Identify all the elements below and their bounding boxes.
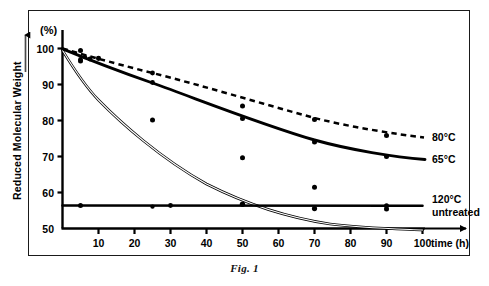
datapoint [78, 57, 83, 62]
datapoint [150, 204, 154, 208]
datapoint [168, 203, 173, 208]
x-tick-label-20: 20 [129, 237, 141, 249]
x-tick-label-40: 40 [201, 237, 213, 249]
y-axis-title-group: Reduced Molecular Weight [11, 61, 23, 200]
series-120c [63, 202, 423, 212]
y-tick-group: 100 90 80 70 60 50 [36, 43, 62, 235]
datapoint [312, 206, 317, 211]
y-axis-unit-label: (%) [40, 24, 57, 36]
x-tick-label-30: 30 [165, 237, 177, 249]
x-tick-label-100: 100 [414, 237, 432, 249]
datapoint [240, 202, 245, 207]
datapoint [240, 116, 245, 121]
datapoint [150, 71, 155, 76]
series-label-80c: 80°C [432, 131, 456, 143]
y-tick-label-90: 90 [42, 79, 54, 91]
y-axis-title: Reduced Molecular Weight [11, 61, 23, 200]
y-tick-label-100: 100 [36, 43, 54, 55]
series-65c-datapoints [78, 55, 389, 159]
figure-caption: Fig. 1 [0, 262, 489, 274]
datapoint [150, 118, 155, 123]
figure-page: 100 90 80 70 60 50 10 20 30 40 [0, 0, 489, 286]
datapoint [78, 48, 83, 53]
series-80c: 80°C [63, 48, 456, 143]
x-tick-label-90: 90 [381, 237, 393, 249]
datapoint [78, 203, 83, 208]
y-tick-label-50: 50 [42, 223, 54, 235]
datapoint [240, 104, 245, 109]
x-tick-label-50: 50 [237, 237, 249, 249]
x-tick-label-10: 10 [93, 237, 105, 249]
y-tick-label-80: 80 [42, 115, 54, 127]
x-axis-title: time (h) [431, 237, 469, 249]
curve-80c [63, 49, 425, 138]
datapoint [384, 154, 389, 159]
x-tick-label-70: 70 [309, 237, 321, 249]
series-label-65c: 65°C [432, 153, 456, 165]
datapoint [88, 57, 93, 62]
series-label-120c: 120°C [432, 193, 462, 205]
x-tick-label-80: 80 [345, 237, 357, 249]
untreated-datapoints [78, 59, 389, 212]
datapoint [384, 133, 389, 138]
datapoint [312, 140, 317, 145]
y-tick-label-70: 70 [42, 151, 54, 163]
datapoint [96, 56, 101, 61]
datapoint [312, 117, 317, 122]
x-tick-label-60: 60 [273, 237, 285, 249]
series-label-untreated: untreated [432, 206, 480, 218]
datapoint [240, 155, 245, 160]
datapoint [150, 80, 155, 85]
chart-canvas: 100 90 80 70 60 50 10 20 30 40 [0, 0, 489, 286]
datapoint [384, 203, 389, 208]
datapoint [312, 185, 317, 190]
x-tick-group: 10 20 30 40 50 60 70 80 90 100 [93, 229, 432, 250]
y-tick-label-60: 60 [42, 187, 54, 199]
